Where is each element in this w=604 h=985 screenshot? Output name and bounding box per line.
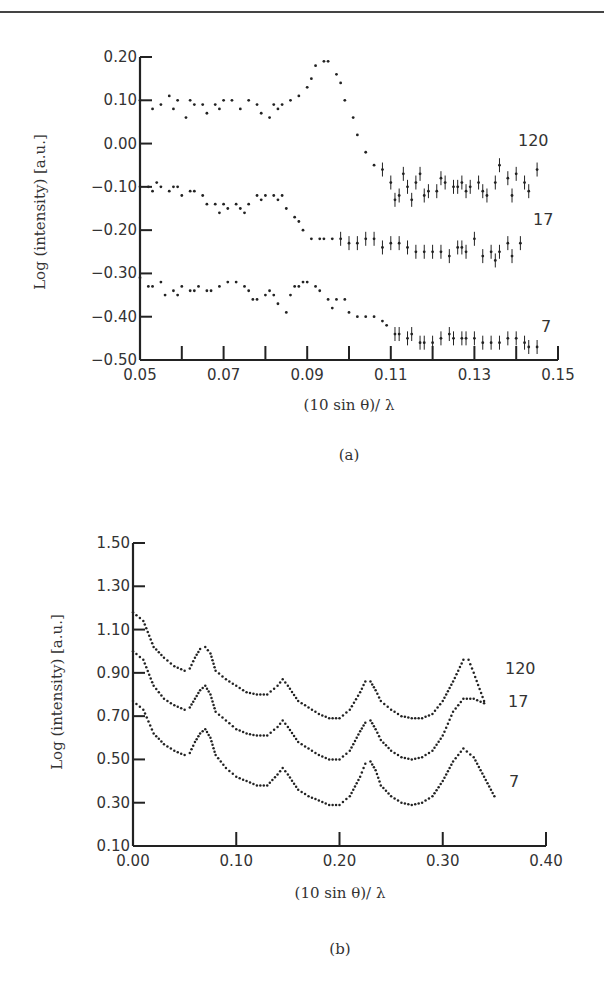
svg-text:−0.30: −0.30 (91, 264, 137, 282)
panel-b-ylabel: Log (intensity) [a.u.] (48, 614, 66, 770)
series-17 (139, 181, 522, 267)
svg-text:0.30: 0.30 (426, 852, 459, 870)
svg-text:0.11: 0.11 (374, 366, 407, 384)
panel-b-axes (133, 543, 546, 846)
svg-text:0.50: 0.50 (97, 750, 130, 768)
figure-canvas: 0.200.100.00−0.10−0.20−0.30−0.40−0.500.0… (0, 0, 604, 985)
panel-b-series (132, 611, 496, 806)
panel-a-chart: 0.200.100.00−0.10−0.20−0.30−0.40−0.500.0… (31, 48, 575, 464)
svg-text:0.07: 0.07 (207, 366, 240, 384)
panel-b-xlabel: (10 sin θ)/ λ (295, 884, 386, 902)
svg-text:0.10: 0.10 (104, 91, 137, 109)
panel-b-ticks: 1.501.301.100.900.700.500.300.100.000.10… (97, 534, 563, 870)
panel-a-axes (140, 57, 558, 360)
panel-a-ticks: 0.200.100.00−0.10−0.20−0.30−0.40−0.500.0… (91, 48, 575, 384)
panel-a-label-120: 120 (518, 131, 549, 150)
series-7 (132, 700, 496, 806)
svg-text:1.50: 1.50 (97, 534, 130, 552)
svg-text:0.90: 0.90 (97, 664, 130, 682)
panel-a-label-17: 17 (533, 210, 553, 229)
panel-a-caption: (a) (339, 446, 360, 464)
panel-b-label-120: 120 (505, 659, 536, 678)
svg-text:1.30: 1.30 (97, 577, 130, 595)
panel-b-label-17: 17 (508, 692, 528, 711)
svg-text:0.10: 0.10 (220, 852, 253, 870)
svg-text:0.15: 0.15 (541, 366, 574, 384)
svg-text:0.05: 0.05 (123, 366, 156, 384)
panel-a-ylabel: Log (intensity) [a.u.] (31, 134, 49, 290)
panel-b-caption: (b) (329, 940, 350, 958)
panel-a-label-7: 7 (541, 317, 551, 336)
series-17 (132, 650, 486, 761)
svg-text:−0.10: −0.10 (91, 178, 137, 196)
svg-text:0.00: 0.00 (104, 135, 137, 153)
svg-text:1.10: 1.10 (97, 621, 130, 639)
svg-text:0.13: 0.13 (458, 366, 491, 384)
svg-text:−0.40: −0.40 (91, 308, 137, 326)
svg-text:−0.20: −0.20 (91, 221, 137, 239)
svg-text:0.00: 0.00 (116, 852, 149, 870)
svg-text:0.20: 0.20 (104, 48, 137, 66)
series-120 (132, 611, 486, 720)
svg-text:0.09: 0.09 (290, 366, 323, 384)
svg-text:0.40: 0.40 (529, 852, 562, 870)
svg-text:0.20: 0.20 (323, 852, 356, 870)
panel-b-chart: 1.501.301.100.900.700.500.300.100.000.10… (48, 534, 563, 958)
svg-text:0.70: 0.70 (97, 707, 130, 725)
svg-text:0.30: 0.30 (97, 794, 130, 812)
panel-b-label-7: 7 (509, 772, 519, 791)
panel-a-series (139, 60, 539, 354)
series-120 (139, 60, 539, 207)
panel-a-xlabel: (10 sin θ)/ λ (304, 396, 395, 414)
series-7 (139, 276, 539, 354)
